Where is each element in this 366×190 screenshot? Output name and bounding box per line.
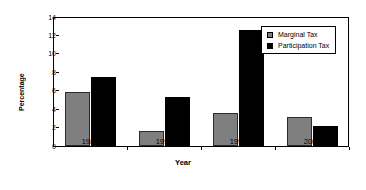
y-axis-tick: 2 [19, 123, 59, 132]
y-axis-tick-mark [56, 90, 59, 91]
y-axis-tick-mark [56, 127, 59, 128]
legend-item-marginal-tax: Marginal Tax [267, 31, 329, 38]
y-axis-tick: 0 [19, 142, 59, 151]
y-axis-tick: 4 [19, 105, 59, 114]
legend-swatch-icon-participation-tax [267, 43, 273, 49]
bar-group [139, 17, 189, 146]
y-axis-tick: 14 [19, 13, 59, 22]
legend-item-participation-tax: Participation Tax [267, 42, 329, 49]
bar-group [65, 17, 115, 146]
y-axis-tick-mark [56, 109, 59, 110]
bar-group [213, 17, 263, 146]
x-axis-tick-label: 1993 [208, 137, 268, 146]
x-axis-tick-label: 2001 [282, 137, 342, 146]
y-axis-tick: 8 [19, 68, 59, 77]
x-axis-title: Year [0, 158, 366, 167]
y-axis-tick: 6 [19, 86, 59, 95]
x-axis-tick-label: 1986 [60, 137, 120, 146]
x-axis-tick-mark [201, 147, 202, 150]
bar-participation-tax [91, 77, 116, 146]
y-axis-tick-mark [56, 53, 59, 54]
y-axis-tick-mark [56, 72, 59, 73]
plot-right-border [348, 17, 349, 146]
chart-legend: Marginal Tax Participation Tax [261, 26, 336, 54]
x-axis-tick-label: 1990 [134, 137, 194, 146]
x-axis-tick-mark [275, 147, 276, 150]
legend-label-participation-tax: Participation Tax [278, 42, 329, 49]
bar-chart: Percentage 02468101214 1986199019932001 … [0, 0, 366, 190]
x-axis-tick-mark [127, 147, 128, 150]
y-axis-tick: 12 [19, 31, 59, 40]
x-axis-tick-mark [349, 147, 350, 150]
y-axis-tick: 10 [19, 49, 59, 58]
y-axis-tick-mark [56, 146, 59, 147]
legend-label-marginal-tax: Marginal Tax [278, 31, 318, 38]
y-axis-tick-mark [56, 17, 59, 18]
legend-swatch-icon-marginal-tax [267, 32, 273, 38]
y-axis-tick-mark [56, 35, 59, 36]
